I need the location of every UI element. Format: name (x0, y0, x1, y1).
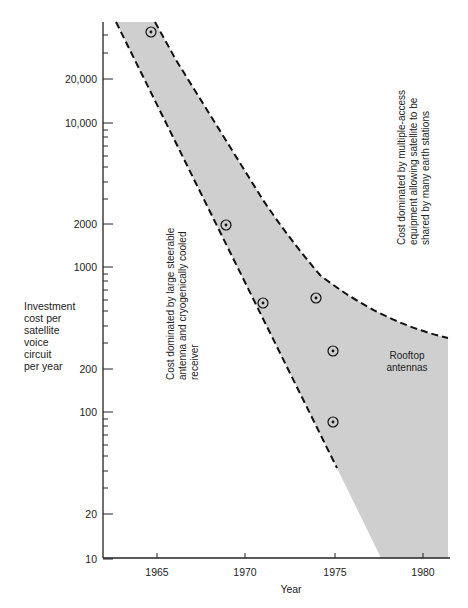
y-axis-title: Investment cost per satellite voice circ… (24, 300, 94, 372)
svg-text:receiver: receiver (189, 344, 200, 380)
svg-text:equipment allowing satellite t: equipment allowing satellite to be (408, 97, 419, 245)
y-tick-label: 1000 (74, 261, 98, 273)
x-tick-label: 1975 (323, 566, 347, 578)
y-tick-label: 2000 (74, 218, 98, 230)
y-major-ticks (103, 79, 113, 559)
annotation-rooftop: Rooftop (389, 350, 424, 361)
y-tick-label: 100 (79, 406, 97, 418)
x-tick-label: 1970 (233, 566, 257, 578)
y-tick-label: 10,000 (65, 117, 97, 129)
svg-text:antenna and cryogenically cool: antenna and cryogenically cooled (177, 232, 188, 380)
svg-text:shared by many earth stations: shared by many earth stations (420, 111, 431, 245)
svg-text:Cost dominated by multiple-acc: Cost dominated by multiple-access (396, 90, 407, 245)
x-tick-label: 1980 (411, 566, 435, 578)
annotation-rooftop: antennas (386, 362, 427, 373)
y-tick-label: 10 (85, 553, 97, 565)
annotation-large-antenna: Cost dominated by large steerable antenn… (165, 227, 200, 380)
y-tick-label: 20 (85, 508, 97, 520)
y-minor-ticks (103, 35, 108, 488)
y-tick-label: 20,000 (65, 73, 97, 85)
svg-text:Cost dominated by large steera: Cost dominated by large steerable (165, 227, 176, 380)
annotation-multiple-access: Cost dominated by multiple-access equipm… (396, 90, 431, 245)
x-axis-title: Year (280, 583, 302, 595)
x-tick-label: 1965 (145, 566, 169, 578)
